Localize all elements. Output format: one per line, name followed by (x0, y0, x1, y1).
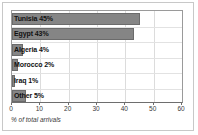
tick-label: 20 (64, 105, 71, 113)
bar-label-egypt: Egypt 43% (14, 29, 49, 39)
tick-label: 40 (121, 105, 128, 113)
tick-label: 50 (149, 105, 156, 113)
bar-row: Iraq 1% (12, 73, 182, 89)
bar-row: Algeria 4% (12, 42, 182, 58)
bar-label-other: Other 5% (14, 91, 44, 101)
x-axis: 0102030405060 (11, 103, 183, 115)
bar-row: Morocco 2% (12, 58, 182, 74)
bar-row: Other 5% (12, 89, 182, 104)
bar-label-tunisia: Tunisia 45% (14, 14, 53, 24)
bar-label-iraq: Iraq 1% (14, 76, 38, 86)
chart-frame: Tunisia 45%Egypt 43%Algeria 4%Morocco 2%… (2, 2, 194, 131)
x-axis-label: % of total arrivals (11, 116, 61, 123)
bar-row: Tunisia 45% (12, 11, 182, 27)
bar-row: Egypt 43% (12, 27, 182, 43)
tick-label: 10 (36, 105, 43, 113)
tick-label: 0 (9, 105, 13, 113)
plot-area: Tunisia 45%Egypt 43%Algeria 4%Morocco 2%… (11, 10, 183, 103)
tick-label: 60 (177, 105, 184, 113)
tick-label: 30 (92, 105, 99, 113)
chart-plot-wrapper: Tunisia 45%Egypt 43%Algeria 4%Morocco 2%… (11, 10, 187, 130)
bar-label-morocco: Morocco 2% (14, 60, 54, 70)
bar-label-algeria: Algeria 4% (14, 45, 49, 55)
